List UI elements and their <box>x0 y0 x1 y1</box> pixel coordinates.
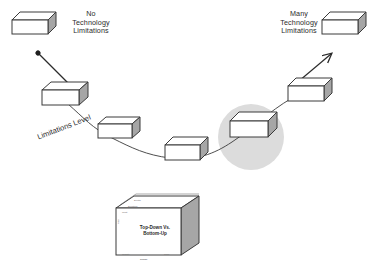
edge-label-cost: Cost <box>122 211 127 214</box>
arrow-right <box>299 54 331 81</box>
label-no-technology-limitations: No Technology Limitations <box>55 10 127 36</box>
box-step-highlighted <box>230 112 277 137</box>
box-step-3 <box>165 137 208 160</box>
edge-label-risk: Risk <box>117 219 120 224</box>
label-top-down-vs-bottom-up: Top-Down Vs. Bottom-Up <box>126 225 184 236</box>
diagram-canvas: No Technology Limitations Many Technolog… <box>0 0 378 275</box>
arrow-left <box>38 53 68 83</box>
diagram-svg <box>0 0 378 275</box>
box-step-4 <box>288 78 332 101</box>
edge-label-quality: Quality <box>122 253 130 256</box>
edge-label-duration: Duration <box>128 205 137 208</box>
box-endpoint-left <box>12 12 56 34</box>
edge-label-scope: Scope <box>140 258 148 261</box>
edge-label-depth: Depth <box>134 199 141 202</box>
box-step-2 <box>98 117 140 138</box>
edge-label-time: Time <box>164 253 169 256</box>
box-step-1 <box>42 82 88 105</box>
label-many-technology-limitations: Many Technology Limitations <box>263 10 335 36</box>
